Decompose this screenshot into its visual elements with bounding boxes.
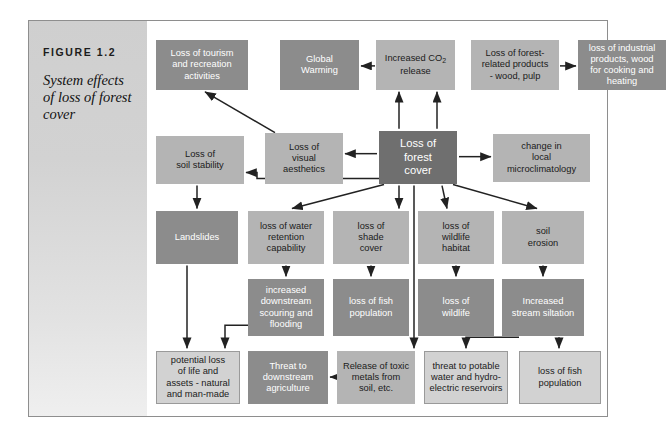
node-global-warming[interactable]: Global Warming [280, 40, 359, 90]
edge-forestcover-to-waterretention [292, 185, 384, 209]
edge-scouring-to-potentialloss [225, 325, 248, 348]
node-landslides[interactable]: Landslides [156, 211, 238, 264]
node-visual-aesthetics[interactable]: Loss of visual aesthetics [265, 133, 343, 184]
node-stream-siltation[interactable]: Increased stream siltation [502, 279, 584, 336]
diagram-canvas: Loss of tourism and recreation activitie… [147, 21, 607, 416]
node-loss-of-forest-cover[interactable]: Loss of forest cover [379, 131, 457, 184]
edge-forestcover-to-wildlifehabitat [442, 186, 447, 209]
node-forest-products[interactable]: Loss of forest- related products - wood,… [471, 40, 559, 90]
node-soil-erosion[interactable]: soil erosion [502, 211, 584, 264]
figure-caption-panel: FIGURE 1.2 System effects of loss of for… [29, 21, 147, 416]
node-soil-stability[interactable]: Loss of soil stability [156, 136, 244, 184]
figure-number-label: FIGURE 1.2 [43, 46, 135, 58]
node-threat-agriculture[interactable]: Threat to downstream agriculture [248, 351, 328, 404]
node-downstream-scouring[interactable]: increased downstream scouring and floodi… [248, 279, 324, 336]
node-tourism[interactable]: Loss of tourism and recreation activitie… [156, 40, 248, 90]
node-toxic-metals[interactable]: Release of toxic metals from soil, etc. [337, 351, 415, 404]
node-co2-release[interactable]: Increased CO2release [376, 40, 455, 90]
edge-siltation-to-potable [466, 337, 519, 348]
node-industrial-products[interactable]: loss of industrial products, wood for co… [578, 40, 666, 90]
edge-forestcover-to-soilerosion [453, 185, 537, 209]
node-shade-cover[interactable]: loss of shade cover [333, 211, 409, 264]
node-wildlife-habitat[interactable]: loss of wildlife habitat [418, 211, 494, 264]
node-potable-water[interactable]: threat to potable water and hydro- elect… [424, 351, 508, 404]
edge-visual-to-tourism [205, 92, 275, 133]
node-potential-loss-of-life[interactable]: potential loss of life and assets - natu… [156, 351, 240, 404]
figure-frame: FIGURE 1.2 System effects of loss of for… [28, 20, 608, 417]
node-microclimatology[interactable]: change in local microclimatology [493, 134, 590, 182]
node-loss-of-wildlife[interactable]: loss of wildlife [418, 279, 494, 336]
node-fish-population-lower[interactable]: loss of fish population [519, 351, 601, 404]
node-water-retention[interactable]: loss of water retention capability [248, 211, 324, 264]
figure-title: System effects of loss of forest cover [43, 72, 135, 123]
node-fish-population-upper[interactable]: loss of fish population [333, 279, 409, 336]
